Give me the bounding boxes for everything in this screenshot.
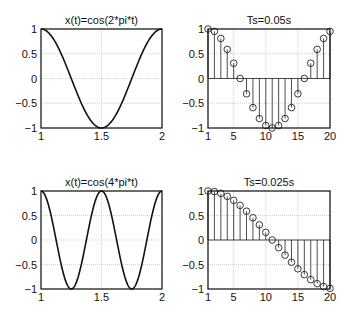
y-tick-label: 1 bbox=[31, 185, 37, 197]
figure: x(t)=cos(2*pi*t)10.50−0.5−111.52Ts=0.05s… bbox=[0, 0, 346, 315]
subplot-2: Ts=0.05s10.50−0.5−115101520 bbox=[182, 14, 336, 142]
x-tick-label: 20 bbox=[324, 291, 336, 303]
y-tick-label: 0 bbox=[198, 73, 204, 85]
subplot-title: x(t)=cos(4*pi*t) bbox=[65, 176, 138, 188]
y-tick-label: 0 bbox=[31, 234, 37, 246]
grid-lines bbox=[41, 29, 162, 128]
x-tick-label: 15 bbox=[292, 291, 304, 303]
y-tick-label: −0.5 bbox=[15, 259, 37, 271]
y-tick-label: 1 bbox=[31, 23, 37, 35]
subplot-4: Ts=0.025s10.50−0.5−115101520 bbox=[182, 176, 336, 303]
x-tick-label: 20 bbox=[324, 130, 336, 142]
y-tick-label: −1 bbox=[24, 283, 37, 295]
y-tick-label: −1 bbox=[191, 283, 204, 295]
y-tick-label: 0 bbox=[198, 234, 204, 246]
y-tick-label: −0.5 bbox=[182, 97, 204, 109]
x-tick-label: 1 bbox=[205, 291, 211, 303]
x-tick-label: 1.5 bbox=[94, 130, 109, 142]
y-tick-label: 0 bbox=[31, 73, 37, 85]
y-tick-label: −0.5 bbox=[182, 259, 204, 271]
y-tick-label: 0.5 bbox=[22, 48, 37, 60]
subplot-title: x(t)=cos(2*pi*t) bbox=[65, 14, 138, 26]
y-tick-label: 1 bbox=[198, 185, 204, 197]
subplot-title: Ts=0.025s bbox=[244, 176, 295, 188]
x-tick-label: 15 bbox=[292, 130, 304, 142]
stem-series bbox=[205, 26, 334, 132]
x-tick-label: 10 bbox=[260, 130, 272, 142]
y-tick-label: 0.5 bbox=[22, 210, 37, 222]
grid-lines bbox=[41, 191, 162, 289]
x-tick-label: 10 bbox=[260, 291, 272, 303]
x-tick-label: 1.5 bbox=[94, 291, 109, 303]
stem-series bbox=[205, 188, 334, 292]
y-tick-label: 0.5 bbox=[189, 210, 204, 222]
subplot-1: x(t)=cos(2*pi*t)10.50−0.5−111.52 bbox=[15, 14, 165, 142]
x-tick-label: 2 bbox=[159, 291, 165, 303]
y-tick-label: 0.5 bbox=[189, 48, 204, 60]
x-tick-label: 1 bbox=[38, 130, 44, 142]
y-tick-label: −1 bbox=[191, 122, 204, 134]
subplot-title: Ts=0.05s bbox=[247, 14, 292, 26]
y-tick-label: −0.5 bbox=[15, 97, 37, 109]
x-tick-label: 2 bbox=[159, 130, 165, 142]
subplot-3: x(t)=cos(4*pi*t)10.50−0.5−111.52 bbox=[15, 176, 165, 303]
x-tick-label: 1 bbox=[38, 291, 44, 303]
x-tick-label: 1 bbox=[205, 130, 211, 142]
x-tick-label: 5 bbox=[231, 291, 237, 303]
x-tick-label: 5 bbox=[231, 130, 237, 142]
y-tick-label: −1 bbox=[24, 122, 37, 134]
y-tick-label: 1 bbox=[198, 23, 204, 35]
